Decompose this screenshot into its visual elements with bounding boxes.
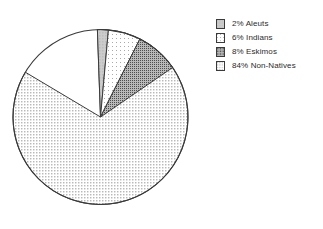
legend-item-non-natives[interactable]: 84% Non-Natives <box>216 59 320 73</box>
legend-label-non-natives: 84% Non-Natives <box>232 61 296 71</box>
legend-label-indians: 6% Indians <box>232 33 273 43</box>
legend-swatch-aleuts-icon <box>216 19 225 29</box>
pie-chart-graphic <box>12 26 189 208</box>
legend-swatch-indians-icon <box>216 33 225 43</box>
pie-svg <box>12 26 189 208</box>
legend-item-eskimos[interactable]: 8% Eskimos <box>216 45 320 59</box>
legend-item-aleuts[interactable]: 2% Aleuts <box>216 17 320 31</box>
legend-label-aleuts: 2% Aleuts <box>232 19 268 29</box>
legend-swatch-eskimos-icon <box>216 47 225 57</box>
chart-legend: 2% Aleuts 6% Indians 8% Eskimos <box>216 17 320 73</box>
legend-label-eskimos: 8% Eskimos <box>232 47 277 57</box>
pie-chart-figure: 2% Aleuts 6% Indians 8% Eskimos <box>0 0 323 229</box>
legend-swatch-non-natives-icon <box>216 61 225 71</box>
legend-item-indians[interactable]: 6% Indians <box>216 31 320 45</box>
